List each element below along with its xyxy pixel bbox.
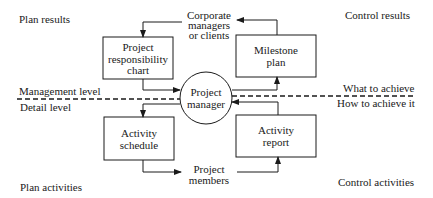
- plan-results-label: Plan results: [19, 14, 70, 25]
- control-activities-label: Control activities: [338, 177, 414, 188]
- project-manager-line1: Project: [180, 86, 232, 98]
- arrow-report-to-manager: [232, 102, 278, 115]
- responsibility-chart-line1: Project: [103, 42, 173, 54]
- plan-activities-label: Plan activities: [20, 182, 82, 193]
- management-level-label: Management level: [19, 86, 101, 97]
- activity-schedule-line2: schedule: [104, 140, 174, 152]
- arrow-schedule-to-members: [143, 160, 181, 172]
- how-to-achieve-label: How to achieve it: [337, 98, 415, 109]
- activity-report-label: Activity report: [236, 125, 316, 148]
- milestone-plan-label: Milestone plan: [236, 45, 316, 68]
- responsibility-chart-label: Project responsibility chart: [103, 42, 173, 77]
- responsibility-chart-line3: chart: [103, 65, 173, 77]
- arrow-manager-to-milestone: [232, 77, 277, 90]
- arrow-manager-to-schedule: [143, 104, 180, 117]
- arrow-members-to-report: [237, 157, 278, 172]
- project-members-node: Project members: [182, 164, 236, 186]
- corporate-line3: or clients: [180, 30, 238, 40]
- milestone-plan-line2: plan: [236, 57, 316, 69]
- detail-level-label: Detail level: [20, 102, 71, 113]
- milestone-plan-line1: Milestone: [236, 45, 316, 57]
- corporate-managers-node: Corporate managers or clients: [180, 10, 238, 40]
- arrow-corporate-to-chart: [143, 22, 182, 37]
- activity-report-line2: report: [236, 137, 316, 149]
- activity-report-line1: Activity: [236, 125, 316, 137]
- activity-schedule-label: Activity schedule: [104, 128, 174, 151]
- activity-schedule-line1: Activity: [104, 128, 174, 140]
- what-to-achieve-label: What to achieve: [343, 83, 414, 94]
- project-manager-line2: manager: [180, 98, 232, 110]
- arrow-chart-to-manager: [143, 79, 180, 90]
- control-results-label: Control results: [345, 10, 410, 21]
- project-manager-label: Project manager: [180, 86, 232, 110]
- arrow-milestone-to-corporate: [237, 20, 277, 35]
- members-line2: members: [182, 175, 236, 186]
